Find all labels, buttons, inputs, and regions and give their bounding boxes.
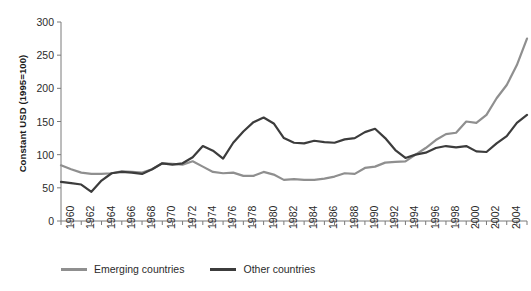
x-tick-label: 1976 [227, 206, 237, 229]
x-tick-label: 1996 [430, 206, 440, 229]
x-tick-label: 2004 [511, 206, 521, 229]
legend-swatch [61, 268, 87, 271]
x-tick-label: 1986 [328, 206, 338, 229]
legend-item: Other countries [210, 264, 315, 275]
plot-area [0, 0, 531, 291]
axis-lines [61, 22, 527, 221]
x-tick-label: 2002 [490, 206, 500, 229]
x-tick-label: 1968 [146, 206, 156, 229]
x-tick-label: 1970 [166, 206, 176, 229]
y-tick-label: 100 [20, 150, 54, 160]
x-tick-label: 1984 [308, 206, 318, 229]
x-tick-label: 1992 [389, 206, 399, 229]
y-tick-label: 300 [20, 17, 54, 27]
chart-legend: Emerging countriesOther countries [61, 264, 315, 275]
x-tick-label: 1962 [85, 206, 95, 229]
y-tick-label: 250 [20, 50, 54, 60]
chart-container: Constant USD (1995=100) 0501001502002503… [0, 0, 531, 291]
x-tick-label: 1964 [106, 206, 116, 229]
x-tick-label: 1972 [187, 206, 197, 229]
x-tick-label: 1960 [65, 206, 75, 229]
y-tick-label: 0 [20, 216, 54, 226]
y-tick-label: 200 [20, 83, 54, 93]
legend-label: Emerging countries [94, 264, 184, 275]
series-lines [61, 39, 527, 192]
x-tick-label: 1982 [288, 206, 298, 229]
legend-item: Emerging countries [61, 264, 184, 275]
legend-label: Other countries [243, 264, 315, 275]
x-tick-label: 1974 [207, 206, 217, 229]
x-tick-label: 1980 [268, 206, 278, 229]
y-tick-label: 150 [20, 117, 54, 127]
y-tick-label: 50 [20, 183, 54, 193]
x-tick-label: 2000 [470, 206, 480, 229]
x-tick-label: 1994 [409, 206, 419, 229]
x-tick-label: 1990 [369, 206, 379, 229]
legend-swatch [210, 268, 236, 271]
x-tick-label: 1978 [247, 206, 257, 229]
x-tick-label: 1998 [450, 206, 460, 229]
x-tick-label: 1988 [349, 206, 359, 229]
x-tick-label: 1966 [126, 206, 136, 229]
tick-marks [57, 22, 527, 225]
